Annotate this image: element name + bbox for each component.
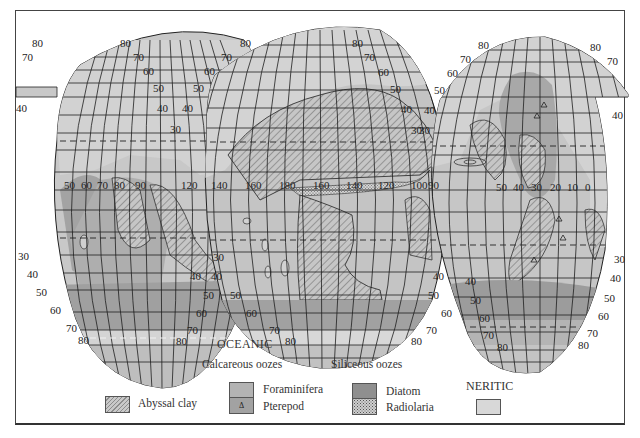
legend-swatch-diatom (352, 383, 377, 399)
lon-label: 0 (585, 182, 591, 193)
lat-label: 70 (133, 52, 144, 63)
legend-label-diatom: Diatom (386, 385, 421, 397)
siliceous-oozes-heading: Siliceous oozes (331, 358, 402, 370)
lon-label: 180 (279, 180, 296, 191)
lobe-pacific-ocean (196, 20, 460, 375)
lon-label: 160 (313, 180, 330, 191)
lat-label: 50 (390, 84, 401, 95)
lat-label: 60 (378, 67, 389, 78)
lon-label: 120 (181, 180, 198, 191)
lat-label: 70 (269, 325, 280, 336)
lat-label: 50 (36, 287, 47, 298)
lat-label: 70 (587, 328, 598, 339)
lon-label: 30 (531, 182, 542, 193)
legend-swatch-pterepod: Δ (229, 397, 254, 414)
lon-label: 90 (428, 180, 439, 191)
lon-label: 120 (378, 180, 395, 191)
lat-label: 50 (193, 83, 204, 94)
lat-label: 60 (598, 311, 609, 322)
lon-label: 140 (211, 180, 228, 191)
lat-label: 80 (590, 42, 601, 53)
lat-label: 40 (612, 110, 623, 121)
lat-label: 30 (614, 254, 625, 265)
lon-label: 90 (135, 180, 146, 191)
lat-label: 40 (211, 271, 222, 282)
lat-label: 70 (364, 52, 375, 63)
legend-label-pterepod: Pterepod (263, 400, 304, 412)
calcareous-oozes-heading: Calcareous oozes (202, 358, 282, 370)
lat-label: 80 (176, 336, 187, 347)
lon-label: 10 (567, 182, 578, 193)
lat-label: 40 (190, 271, 201, 282)
lat-label: 70 (426, 325, 437, 336)
lobe-atlantic-ocean (420, 30, 640, 380)
lat-label: 60 (50, 305, 61, 316)
lat-label: 60 (447, 68, 458, 79)
lat-label: 50 (203, 290, 214, 301)
world-sediment-map (0, 0, 640, 438)
lat-label: 80 (32, 38, 43, 49)
lat-label: 80 (120, 38, 131, 49)
lat-label: 80 (478, 40, 489, 51)
lat-label: 70 (483, 330, 494, 341)
lat-label: 50 (230, 290, 241, 301)
lon-label: 40 (513, 182, 524, 193)
lon-label: 140 (346, 180, 363, 191)
lon-label: 50 (64, 180, 75, 191)
lat-label: 80 (240, 38, 251, 49)
lat-label: 70 (66, 323, 77, 334)
lat-label: 80 (578, 340, 589, 351)
legend-label-radiolaria: Radiolaria (386, 401, 434, 413)
lat-label: 70 (460, 54, 471, 65)
lat-label: 70 (187, 325, 198, 336)
lat-label: 50 (428, 290, 439, 301)
lat-label: 30 (18, 251, 29, 262)
lon-label: 70 (97, 180, 108, 191)
legend-swatch-abyssal-clay (105, 396, 130, 413)
lat-label: 40 (157, 103, 168, 114)
lat-label: 60 (441, 308, 452, 319)
legend-label-foraminifera: Foraminifera (263, 383, 323, 395)
neritic-heading: NERITIC (466, 379, 513, 394)
lat-label: 40 (610, 273, 621, 284)
lat-label: 50 (153, 83, 164, 94)
lat-label: 30 (170, 124, 181, 135)
lat-label: 40 (465, 276, 476, 287)
lon-label: 60 (81, 180, 92, 191)
lat-label: 70 (22, 52, 33, 63)
lat-label: 40 (424, 105, 435, 116)
lat-label: 30 (213, 252, 224, 263)
oceanic-heading: OCEANIC (217, 337, 272, 352)
lon-label: 100 (411, 180, 428, 191)
lat-label: 40 (182, 103, 193, 114)
lat-label: 60 (246, 308, 257, 319)
lat-label: 60 (479, 313, 490, 324)
lat-label: 80 (78, 335, 89, 346)
lat-label: 60 (196, 308, 207, 319)
lat-label: 80 (285, 336, 296, 347)
legend-swatch-foraminifera (229, 382, 254, 398)
lat-label: 50 (470, 295, 481, 306)
legend-swatch-neritic (476, 399, 501, 415)
lat-label: 50 (604, 293, 615, 304)
legend-label-abyssal-clay: Abyssal clay (138, 397, 197, 409)
lon-label: 20 (550, 182, 561, 193)
lon-label: 50 (496, 182, 507, 193)
lat-label: 40 (433, 271, 444, 282)
lat-label: 60 (204, 66, 215, 77)
lon-label: 80 (114, 180, 125, 191)
lon-label: 160 (245, 180, 262, 191)
pterepod-icon: Δ (239, 401, 244, 410)
lat-label: 70 (221, 52, 232, 63)
lat-label: 50 (434, 85, 445, 96)
lat-label: 80 (411, 336, 422, 347)
lat-label: 40 (16, 103, 27, 114)
lat-label: 40 (401, 104, 412, 115)
lat-label: 30 (419, 125, 430, 136)
lat-label: 40 (27, 269, 38, 280)
lat-label: 70 (607, 56, 618, 67)
lat-label: 80 (497, 342, 508, 353)
legend-swatch-radiolaria (352, 398, 377, 415)
lat-label: 60 (143, 66, 154, 77)
lat-label: 80 (352, 38, 363, 49)
